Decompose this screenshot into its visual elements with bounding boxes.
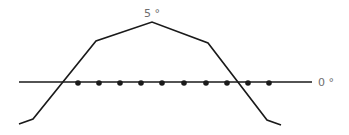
baseline-dot — [245, 80, 251, 86]
baseline-dots — [75, 80, 272, 86]
baseline-dot — [266, 80, 272, 86]
baseline-dot — [75, 80, 81, 86]
baseline-dot — [224, 80, 230, 86]
angle-profile-line — [19, 22, 281, 125]
baseline-angle-label: 0 ° — [318, 77, 334, 88]
profile-diagram — [0, 0, 349, 135]
peak-angle-label: 5 ° — [144, 8, 160, 19]
baseline-dot — [159, 80, 165, 86]
baseline-dot — [138, 80, 144, 86]
baseline-dot — [181, 80, 187, 86]
baseline-dot — [203, 80, 209, 86]
baseline-dot — [117, 80, 123, 86]
baseline-dot — [96, 80, 102, 86]
